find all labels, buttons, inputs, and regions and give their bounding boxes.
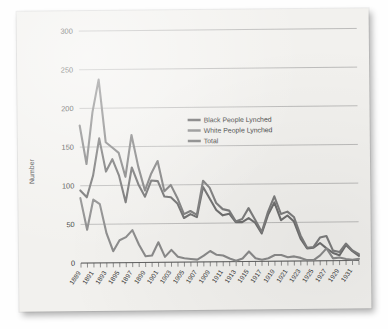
x-tick-label: 1927: [313, 267, 327, 283]
chart-legend: Black People LynchedWhite People Lynched…: [188, 116, 273, 145]
x-tick-label: 1899: [132, 269, 146, 285]
x-tick-label: 1893: [94, 269, 108, 285]
y-tick-label: 0: [71, 259, 75, 268]
x-tick-label: 1911: [210, 268, 224, 284]
x-tick-label: 1889: [68, 269, 82, 285]
x-tick-label: 1917: [249, 268, 263, 284]
y-tick-label: 250: [61, 65, 73, 74]
x-tick-label: 1921: [275, 267, 289, 283]
x-tick-label: 1909: [197, 268, 211, 284]
y-tick-label: 50: [66, 220, 74, 229]
screenshot-root: 050100150200250300 188918911893189518971…: [0, 0, 388, 329]
y-tick-label: 200: [61, 104, 73, 113]
x-tick-label: 1925: [301, 267, 315, 283]
x-tick-label: 1919: [262, 268, 276, 284]
x-tick-label: 1913: [223, 268, 237, 284]
x-tick-label: 1901: [145, 269, 159, 285]
x-axis-tick-labels: 1889189118931895189718991901190319051907…: [68, 267, 354, 286]
y-axis-tick-labels: 050100150200250300: [60, 27, 75, 268]
chart-card: 050100150200250300 188918911893189518971…: [17, 8, 372, 311]
x-tick-label: 1897: [120, 269, 134, 285]
x-axis: [81, 260, 359, 267]
x-tick-label: 1929: [326, 267, 340, 283]
y-tick-label: 100: [62, 181, 74, 190]
x-tick-label: 1923: [288, 267, 302, 283]
y-tick-label: 150: [61, 143, 73, 152]
x-tick-label: 1891: [81, 269, 95, 285]
gridlines: [79, 28, 359, 263]
chart-figure: 050100150200250300 188918911893189518971…: [17, 8, 372, 311]
x-tick-label: 1903: [158, 269, 172, 285]
x-tick-label: 1895: [107, 269, 121, 285]
legend-label: White People Lynched: [204, 126, 273, 135]
lynching-statistics-line-chart: 050100150200250300 188918911893189518971…: [17, 8, 372, 311]
y-axis-label: Number: [28, 158, 35, 184]
series-line: [79, 77, 359, 257]
x-tick-label: 1931: [339, 267, 353, 283]
x-tick-label: 1905: [171, 268, 185, 284]
legend-label: Total: [204, 137, 219, 144]
data-series-lines: [79, 77, 359, 262]
x-tick-label: 1907: [184, 268, 198, 284]
x-tick-label: 1915: [236, 268, 250, 284]
legend-label: Black People Lynched: [204, 116, 272, 125]
y-tick-label: 300: [60, 27, 72, 36]
